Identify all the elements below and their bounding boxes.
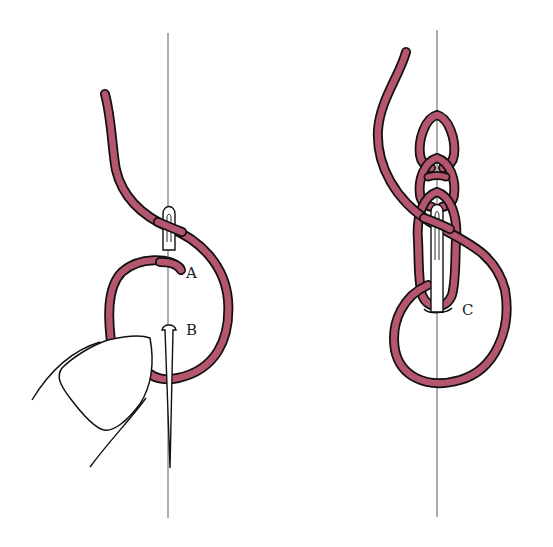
diagram-canvas — [0, 0, 553, 547]
point-label-c: C — [462, 303, 473, 318]
left-needle-point-icon — [162, 325, 176, 468]
left-panel — [32, 33, 228, 518]
right-panel — [378, 30, 507, 517]
thumb-icon — [32, 336, 152, 467]
chain-stitch-diagram: A B C — [0, 0, 553, 547]
point-label-a: A — [186, 266, 197, 281]
point-label-b: B — [186, 323, 197, 338]
